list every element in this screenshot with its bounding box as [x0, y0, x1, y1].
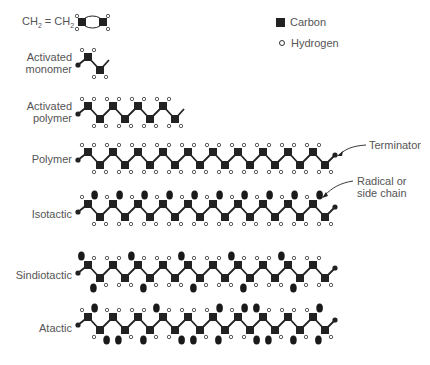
- hydrogen-atom: [317, 143, 320, 146]
- carbon-atom: [221, 213, 229, 221]
- hydrogen-atom: [229, 170, 232, 173]
- carbon-atom: [121, 161, 129, 169]
- carbon-atom: [246, 274, 254, 282]
- hydrogen-atom: [217, 143, 220, 146]
- hydrogen-atom: [180, 195, 183, 198]
- chain-activated-polymer: [75, 97, 184, 127]
- hydrogen-atom: [242, 256, 245, 259]
- hydrogen-atom: [142, 124, 145, 127]
- radical-side-chain: [290, 283, 297, 292]
- hydrogen-atom: [204, 222, 207, 225]
- hydrogen-atom: [92, 75, 95, 78]
- radical-side-chain: [190, 335, 197, 344]
- hydrogen-atom: [75, 14, 78, 17]
- radical-side-chain: [78, 251, 85, 260]
- carbon-atom: [109, 313, 117, 321]
- hydrogen-atom: [142, 222, 145, 225]
- label-line-2: monomer: [26, 63, 72, 75]
- formula-equals: =: [42, 15, 55, 27]
- hydrogen-atom: [167, 222, 170, 225]
- carbon-atom: [134, 102, 142, 110]
- hydrogen-atom: [305, 256, 308, 259]
- legend-hydrogen: Hydrogen: [277, 37, 339, 49]
- hydrogen-atom: [205, 308, 208, 311]
- carbon-atom: [171, 161, 179, 169]
- hydrogen-atom: [142, 170, 145, 173]
- carbon-atom: [146, 326, 154, 334]
- chain-end-terminator: [332, 317, 337, 322]
- chain-activated-monomer: [75, 48, 109, 78]
- hydrogen-atom: [92, 170, 95, 173]
- hydrogen-atom: [117, 222, 120, 225]
- hydrogen-atom: [292, 308, 295, 311]
- carbon-atom: [134, 200, 142, 208]
- carbon-atom: [296, 326, 304, 334]
- carbon-atom: [259, 261, 267, 269]
- carbon-atom: [234, 313, 242, 321]
- hydrogen-atom: [279, 222, 282, 225]
- chain-start-terminator: [75, 111, 80, 116]
- carbon-atom: [234, 148, 242, 156]
- hydrogen-atom: [179, 124, 182, 127]
- legend-carbon: Carbon: [276, 16, 326, 28]
- hydrogen-atom: [92, 222, 95, 225]
- carbon-atom: [109, 200, 117, 208]
- carbon-atom: [84, 261, 92, 269]
- radical-side-chain: [115, 335, 122, 344]
- hydrogen-atom: [267, 283, 270, 286]
- hydrogen-atom: [167, 97, 170, 100]
- radical-side-chain: [178, 335, 185, 344]
- label-line-2: polymer: [27, 112, 72, 124]
- chain-end-terminator: [332, 152, 337, 157]
- hydrogen-atom: [179, 283, 182, 286]
- radical-side-chain: [266, 190, 273, 199]
- hydrogen-atom: [255, 143, 258, 146]
- hydrogen-atom: [204, 170, 207, 173]
- hydrogen-atom: [217, 170, 220, 173]
- hydrogen-atom: [167, 283, 170, 286]
- chain-start-terminator: [75, 209, 80, 214]
- hydrogen-atom: [105, 143, 108, 146]
- carbon-atom: [209, 148, 217, 156]
- chain-start-terminator: [75, 270, 80, 275]
- carbon-atom: [246, 213, 254, 221]
- hydrogen-atom: [329, 335, 332, 338]
- ethylene-molecule: [75, 14, 109, 30]
- hydrogen-atom: [192, 308, 195, 311]
- carbon-atom: [259, 148, 267, 156]
- carbon-atom: [234, 261, 242, 269]
- carbon-atom: [171, 326, 179, 334]
- label-activated-monomer: Activated monomer: [26, 51, 72, 75]
- carbon-atom: [259, 200, 267, 208]
- hydrogen-atom: [80, 97, 83, 100]
- radical-side-chain: [90, 283, 97, 292]
- radical-side-chain: [290, 335, 297, 344]
- hydrogen-atom: [104, 124, 107, 127]
- annotation-radical: Radical or side chain: [357, 175, 407, 199]
- hydrogen-atom: [267, 308, 270, 311]
- hydrogen-atom: [279, 283, 282, 286]
- hydrogen-atom: [92, 335, 95, 338]
- hydrogen-atom: [117, 308, 120, 311]
- radical-side-chain: [216, 303, 223, 312]
- carbon-atom: [309, 148, 317, 156]
- carbon-atom: [134, 261, 142, 269]
- carbon-atom: [309, 313, 317, 321]
- chain-start-terminator: [75, 157, 80, 162]
- hydrogen-atom: [167, 124, 170, 127]
- hydrogen-atom: [280, 308, 283, 311]
- chain-polymer: [75, 143, 337, 173]
- label-polymer: Polymer: [32, 153, 72, 165]
- hydrogen-atom: [242, 222, 245, 225]
- hydrogen-atom: [142, 143, 145, 146]
- carbon-atom: [321, 326, 329, 334]
- hydrogen-atom: [129, 283, 132, 286]
- hydrogen-atom: [192, 256, 195, 259]
- carbon-atom: [234, 200, 242, 208]
- carbon-atom: [259, 313, 267, 321]
- hydrogen-atom: [154, 335, 157, 338]
- chain-start-terminator: [75, 322, 80, 327]
- carbon-atom: [184, 261, 192, 269]
- carbon-atom: [321, 213, 329, 221]
- label-line-1: Activated: [27, 100, 72, 112]
